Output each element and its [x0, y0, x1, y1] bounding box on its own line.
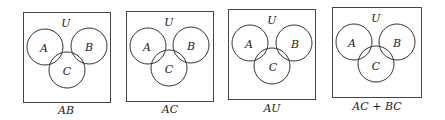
- set-a-label: A: [39, 42, 48, 55]
- set-b-label: B: [290, 38, 299, 51]
- set-a-label: A: [142, 41, 151, 54]
- diagram-caption: AU: [262, 102, 281, 115]
- venn-diagram-ac: U A B C AC: [127, 12, 214, 117]
- venn-diagram-ac-plus-bc: U A B C AC + BC: [333, 8, 422, 114]
- set-b-label: B: [84, 41, 93, 54]
- set-b-label: B: [186, 40, 195, 53]
- set-c-label: C: [165, 63, 174, 76]
- universe-label: U: [164, 16, 174, 29]
- venn-diagram-au: U A B C AU: [229, 10, 316, 116]
- set-c-label: C: [63, 65, 72, 78]
- universe-label: U: [371, 12, 381, 25]
- universe-label: U: [61, 17, 71, 30]
- diagram-caption: AC + BC: [351, 100, 402, 113]
- set-b-label: B: [392, 37, 401, 50]
- venn-diagram-row: U A B C AB U A B C AC U A B C AU U: [0, 0, 445, 120]
- set-c-label: C: [269, 61, 278, 74]
- set-a-label: A: [347, 37, 356, 50]
- diagram-caption: AC: [161, 103, 179, 116]
- set-a-label: A: [244, 38, 253, 51]
- universe-label: U: [267, 14, 277, 27]
- venn-diagram-ab: U A B C AB: [24, 13, 111, 118]
- set-c-label: C: [372, 60, 381, 73]
- diagram-caption: AB: [57, 104, 74, 117]
